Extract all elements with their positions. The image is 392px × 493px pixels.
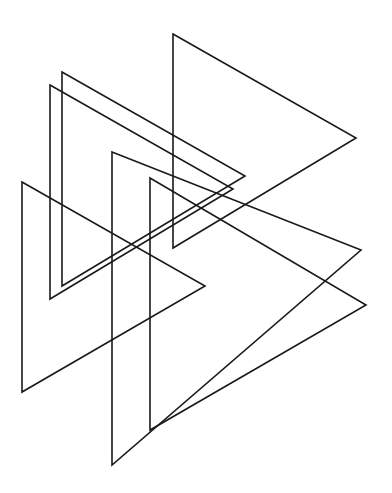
triangles-drawing [0,0,392,493]
canvas-background [0,0,392,493]
artboard [0,0,392,493]
